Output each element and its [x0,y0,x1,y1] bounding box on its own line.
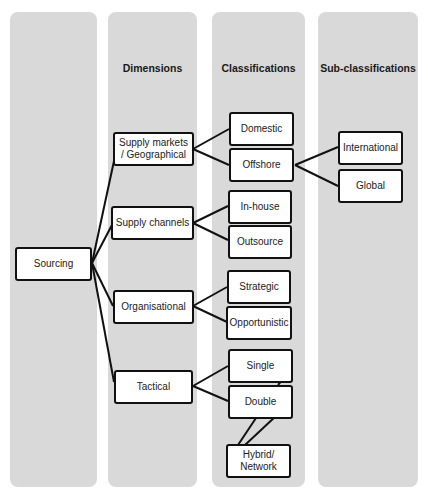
node-strategic: Strategic [227,270,291,304]
node-hybrid-network: Hybrid/ Network [226,444,291,478]
node-in-house: In-house [228,190,292,224]
node-double: Double [228,385,293,419]
node-domestic: Domestic [229,112,294,146]
node-sourcing: Sourcing [15,247,92,281]
node-opportunistic: Opportunistic [226,306,292,340]
node-tactical: Tactical [114,370,193,404]
node-supply-channels: Supply channels [111,206,194,240]
column-heading-classifications: Classifications [212,62,305,74]
column-dimensions: Dimensions [108,12,197,487]
node-offshore: Offshore [229,148,294,182]
node-global: Global [338,169,403,203]
column-heading-subclassifications: Sub-classifications [318,62,418,74]
column-subclassifications: Sub-classifications [318,12,418,487]
node-single: Single [228,349,293,383]
column-heading-dimensions: Dimensions [108,62,197,74]
node-organisational: Organisational [113,290,194,324]
node-outsource: Outsource [228,225,292,259]
node-supply-markets: Supply markets / Geographical [113,132,194,166]
node-international: International [338,131,403,165]
